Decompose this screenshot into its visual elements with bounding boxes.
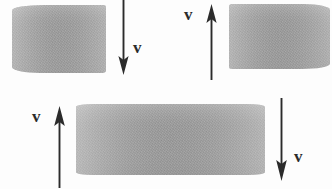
block-top-left [12,5,106,73]
velocity-label-top-left: v [133,39,142,56]
velocity-label-bottom-right: v [294,148,303,165]
velocity-label-top-right: v [184,6,193,23]
block-top-right [229,4,330,69]
velocity-arrow-top-right-up [199,2,225,84]
block-bottom-center [76,104,265,175]
physics-figure: v v v v [0,0,332,189]
velocity-label-bottom-left: v [32,108,41,125]
velocity-arrow-bottom-left-up [47,104,73,189]
velocity-arrow-bottom-right-down [269,96,295,186]
